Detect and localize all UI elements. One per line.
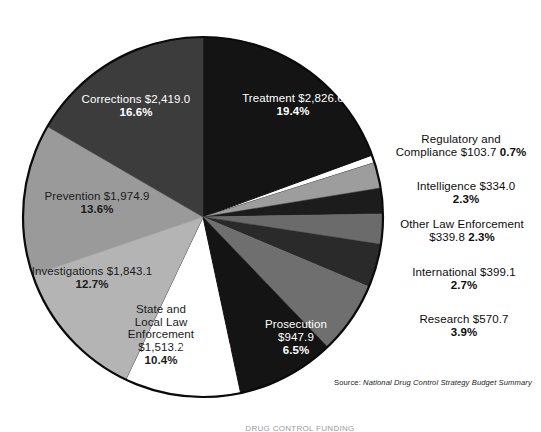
source-title: National Drug Control Strategy Budget Su… bbox=[363, 378, 532, 387]
pie-chart bbox=[0, 0, 541, 432]
chart-page: Treatment $2,826.6 19.4% Corrections $2,… bbox=[0, 0, 541, 432]
bottom-caption: DRUG CONTROL FUNDING bbox=[150, 424, 450, 432]
source-label: Source: bbox=[334, 378, 361, 387]
source-note: Source: National Drug Control Strategy B… bbox=[334, 378, 540, 387]
pie-slice-group bbox=[23, 37, 383, 397]
